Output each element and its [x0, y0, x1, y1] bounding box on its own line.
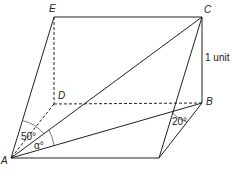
label-side-length: 1 unit — [205, 52, 230, 63]
diagonal-AC — [11, 17, 202, 158]
label-B: B — [206, 96, 213, 107]
label-A: A — [0, 155, 8, 166]
hidden-edge-DB — [54, 103, 202, 104]
edge-front-C — [159, 17, 202, 158]
prism-diagram: E C D B A 1 unit 50° α° 20° — [0, 0, 233, 179]
label-angle-alpha: α° — [34, 140, 44, 151]
angle-arc-alpha — [49, 130, 54, 146]
label-angle-20: 20° — [172, 116, 187, 127]
label-C: C — [204, 4, 212, 15]
label-E: E — [49, 3, 56, 14]
edge-front-B — [159, 103, 202, 158]
label-D: D — [58, 90, 65, 101]
